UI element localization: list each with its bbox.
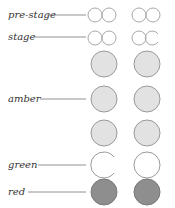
label-pre-stage: pre-stage (8, 9, 56, 20)
amber-lamp-left-1 (91, 51, 117, 77)
prestage-lamp-left-b (102, 8, 116, 22)
amber-lamp-right-2 (134, 86, 160, 112)
prestage-lamp-left-a (88, 8, 102, 22)
red-lamp-left (91, 179, 117, 205)
stage-lamp-left-b (102, 31, 116, 45)
amber-lamp-right-1 (134, 51, 160, 77)
prestage-lamp-right-a (132, 8, 146, 22)
green-lamp-left-partial (91, 152, 114, 178)
stage-lamp-right-a (132, 31, 146, 45)
row-amber: amber (8, 51, 160, 146)
label-amber: amber (8, 93, 42, 104)
green-lamp-right (134, 152, 160, 178)
red-lamp-right (134, 179, 160, 205)
amber-lamp-left-3 (91, 120, 117, 146)
light-tree-diagram: pre-stage stage amber green red (0, 0, 175, 208)
row-stage: stage (8, 31, 158, 45)
prestage-lamp-right-b (146, 8, 160, 22)
row-pre-stage: pre-stage (8, 8, 160, 22)
label-green: green (8, 159, 37, 170)
stage-lamp-left-a (88, 31, 102, 45)
row-green: green (8, 152, 160, 178)
label-stage: stage (8, 31, 36, 42)
stage-lamp-right-b-partial (145, 31, 158, 45)
amber-lamp-left-2 (91, 86, 117, 112)
amber-lamp-right-3 (134, 120, 160, 146)
label-red: red (8, 186, 25, 197)
row-red: red (8, 179, 160, 205)
